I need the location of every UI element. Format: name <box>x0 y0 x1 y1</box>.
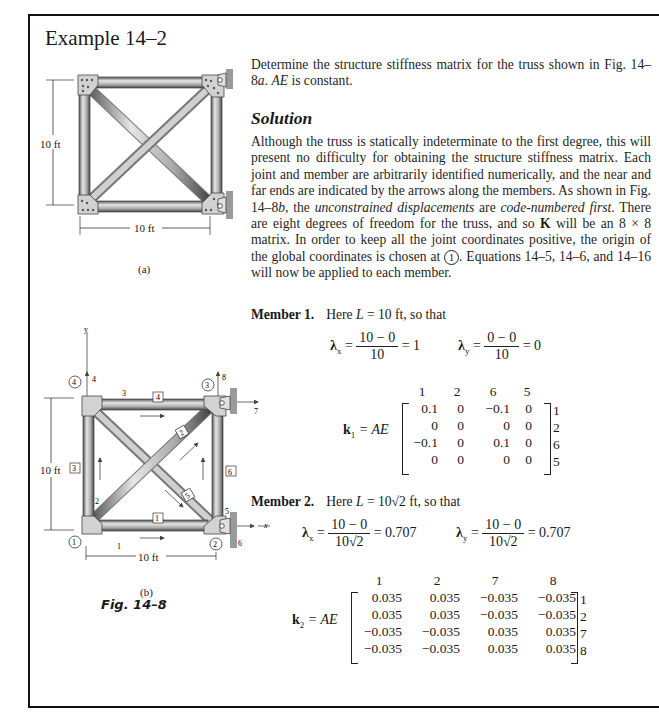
intro-italic-a: a <box>258 73 265 88</box>
lambda-result: = 0 <box>523 338 541 353</box>
cell: 0 <box>470 417 516 434</box>
cell: −0.1 <box>470 400 516 417</box>
row-label: 6 <box>553 436 560 453</box>
k2-row-labels: 1 2 7 8 <box>580 591 587 659</box>
matrix-row: −0.035−0.0350.0350.035 <box>350 623 582 640</box>
k-eq: = AE <box>355 422 388 437</box>
cell: 0 <box>470 451 516 468</box>
col-header: 2 <box>444 383 470 400</box>
cell: 0.035 <box>350 589 408 606</box>
example-title: Example 14–2 <box>45 26 167 51</box>
row-label: 1 <box>580 591 587 608</box>
svg-text:4: 4 <box>156 393 160 402</box>
problem-statement: Determine the structure stiffness matrix… <box>251 57 651 90</box>
cell: 0.035 <box>350 606 408 623</box>
svg-text:5: 5 <box>225 507 229 516</box>
member-1-lambda-y: λy = 0 − 010 = 0 <box>458 330 541 363</box>
frame-top-border <box>28 14 659 16</box>
k-symbol: k <box>292 612 300 627</box>
k2-left-bracket <box>351 592 358 664</box>
lambda-symbol: λ <box>458 338 465 353</box>
row-label: 2 <box>580 608 587 625</box>
cell: 0 <box>516 434 538 451</box>
k1-right-bracket <box>544 403 551 475</box>
cell: 0.035 <box>466 640 524 657</box>
k-symbol: k <box>343 422 351 437</box>
k1-matrix: 1 2 6 5 0.10−0.10 0000 −0.100.10 0000 <box>400 383 538 468</box>
k1-label: k1 = AE <box>343 422 389 440</box>
fraction: 10 − 010 <box>356 330 398 363</box>
cell: −0.035 <box>466 606 524 623</box>
lambda-sub: x <box>309 533 314 543</box>
member-1-heading: Member 1.Here L = 10 ft, so that <box>251 307 446 323</box>
fig-a-caption: (a) <box>138 263 150 275</box>
denominator: 10√2 <box>328 534 370 550</box>
fraction: 10 − 010√2 <box>482 517 524 550</box>
cell: −0.035 <box>350 640 408 657</box>
row-label: 2 <box>553 419 560 436</box>
fraction: 0 − 010 <box>484 330 519 363</box>
member-2-text-a: Here <box>326 494 356 509</box>
cell: 0.1 <box>470 434 516 451</box>
frame-left-border <box>28 14 30 707</box>
denominator: 10√2 <box>482 534 524 550</box>
joint-1-circle: 1 <box>444 250 459 265</box>
svg-text:3: 3 <box>72 464 76 473</box>
cell: 0 <box>444 451 470 468</box>
solution-italic-b: b <box>278 200 285 215</box>
member-2-lambda-y: λy = 10 − 010√2 = 0.707 <box>456 517 571 550</box>
member-2-L: L <box>356 494 364 509</box>
fraction: 10 − 010√2 <box>328 517 370 550</box>
matrix-row: 0000 <box>400 417 538 434</box>
cell: −0.035 <box>350 623 408 640</box>
row-label: 8 <box>580 642 587 659</box>
col-header: 6 <box>470 383 516 400</box>
cell: −0.035 <box>466 589 524 606</box>
lambda-symbol: λ <box>456 525 463 540</box>
figure-caption: Fig. 14–8 <box>101 597 167 612</box>
fig-b-dim-vertical: 10 ft <box>40 464 60 476</box>
numerator: 10 − 0 <box>482 517 524 534</box>
svg-text:2: 2 <box>213 540 217 549</box>
matrix-row: 0.10−0.10 <box>400 400 538 417</box>
svg-text:7: 7 <box>254 407 258 416</box>
fig-a-dim-vertical: 10 ft <box>40 138 60 150</box>
numerator: 10 − 0 <box>356 330 398 347</box>
solution-text-c: are <box>474 200 500 215</box>
cell: 0.035 <box>408 589 466 606</box>
matrix-row: 0000 <box>400 451 538 468</box>
member-1-text-b: = 10 ft, so that <box>364 307 446 322</box>
numerator: 0 − 0 <box>484 330 519 347</box>
k1-row-labels: 1 2 6 5 <box>553 402 560 470</box>
solution-italic-code-numbered: code-numbered first <box>501 200 612 215</box>
lambda-sub: x <box>337 346 342 356</box>
cell: 0 <box>444 417 470 434</box>
denominator: 10 <box>484 347 519 363</box>
cell: 0 <box>516 451 538 468</box>
fig-a-dim-horizontal: 10 ft <box>134 222 154 234</box>
cell: 0.035 <box>466 623 524 640</box>
svg-text:1: 1 <box>72 538 76 547</box>
solution-text-b: , the <box>285 200 315 215</box>
solution-paragraph: Although the truss is statically indeter… <box>251 134 651 282</box>
svg-text:3: 3 <box>205 381 209 390</box>
col-header: 5 <box>516 383 538 400</box>
k2-label: k2 = AE <box>292 612 338 630</box>
numerator: 10 − 0 <box>328 517 370 534</box>
cell: 0.035 <box>408 606 466 623</box>
member-1-L: L <box>356 307 364 322</box>
matrix-row: −0.100.10 <box>400 434 538 451</box>
member-1-lambda-x: λx = 10 − 010 = 1 <box>330 330 420 363</box>
frame-bottom-border <box>28 706 659 708</box>
member-1-text-a: Here <box>326 307 356 322</box>
solution-italic-unconstrained: unconstrained displacements <box>315 200 475 215</box>
row-label: 7 <box>580 625 587 642</box>
k-eq: = AE <box>304 612 337 627</box>
k1-left-bracket <box>402 403 409 475</box>
member-2-heading: Member 2.Here L = 10√2 ft, so that <box>251 494 460 510</box>
svg-text:3: 3 <box>122 389 126 398</box>
svg-text:1: 1 <box>155 514 159 523</box>
svg-text:1: 1 <box>117 542 121 551</box>
truss-figure-a <box>40 65 240 240</box>
svg-text:x: x <box>263 521 268 530</box>
